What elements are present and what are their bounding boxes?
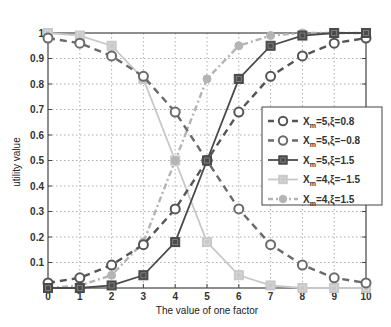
x-axis-label: The value of one factor — [156, 305, 259, 316]
data-point-square — [298, 284, 307, 293]
data-point-square — [362, 29, 371, 38]
data-point-circle — [107, 261, 116, 270]
y-tick-label: 0.8 — [30, 79, 44, 90]
data-point-circle — [234, 204, 243, 213]
data-point-dot — [171, 157, 179, 165]
data-point-dot — [235, 42, 243, 50]
data-point-dot — [108, 271, 116, 279]
y-tick-label: 0.3 — [30, 206, 44, 217]
y-tick-label: 0.6 — [30, 130, 44, 141]
data-point-square — [266, 41, 275, 50]
data-point-square — [203, 156, 212, 165]
line-chart: 0123456789100.10.20.30.40.50.60.70.80.91… — [0, 0, 391, 327]
data-point-circle — [298, 261, 307, 270]
data-point-circle — [266, 240, 275, 249]
x-tick-label: 5 — [204, 291, 210, 302]
x-tick-label: 6 — [236, 291, 242, 302]
data-point-square — [279, 156, 287, 164]
x-tick-label: 4 — [172, 291, 178, 302]
data-point-circle — [75, 273, 84, 282]
data-point-square — [330, 284, 339, 293]
data-point-square — [44, 284, 53, 293]
data-point-circle — [44, 34, 53, 43]
data-point-square — [234, 271, 243, 280]
data-point-circle — [171, 204, 180, 213]
data-point-square — [139, 271, 148, 280]
data-point-circle — [298, 51, 307, 60]
data-point-square — [75, 284, 84, 293]
data-point-circle — [279, 117, 287, 125]
data-point-square — [107, 41, 116, 50]
data-point-square — [234, 74, 243, 83]
data-point-dot — [279, 195, 286, 202]
y-tick-label: 0.2 — [30, 232, 44, 243]
x-tick-label: 7 — [268, 291, 274, 302]
data-point-circle — [330, 39, 339, 48]
data-point-square — [266, 281, 275, 290]
data-point-circle — [266, 72, 275, 81]
data-point-square — [279, 175, 287, 183]
data-point-circle — [362, 278, 371, 287]
y-tick-label: 0.5 — [30, 155, 44, 166]
x-tick-label: 2 — [109, 291, 115, 302]
data-point-square — [330, 29, 339, 38]
data-point-circle — [171, 108, 180, 117]
data-point-circle — [330, 273, 339, 282]
x-tick-label: 3 — [141, 291, 147, 302]
y-tick-label: 0.7 — [30, 104, 44, 115]
data-point-circle — [75, 39, 84, 48]
data-point-circle — [279, 136, 287, 144]
y-axis-label: utility value — [11, 137, 22, 187]
data-point-square — [298, 31, 307, 40]
data-point-circle — [107, 51, 116, 60]
data-point-square — [107, 281, 116, 290]
data-point-circle — [139, 72, 148, 81]
y-tick-label: 0.9 — [30, 53, 44, 64]
data-point-dot — [203, 75, 211, 83]
data-point-circle — [139, 240, 148, 249]
data-point-dot — [267, 32, 275, 40]
data-point-square — [203, 238, 212, 247]
y-tick-label: 0.4 — [30, 181, 44, 192]
data-point-circle — [234, 108, 243, 117]
y-tick-label: 0.1 — [30, 257, 44, 268]
legend: Xm=5,ξ=0.8Xm=5,ξ=−0.8Xm=5,ξ=1.5Xm=4,ξ=−1… — [262, 107, 382, 207]
data-point-square — [171, 238, 180, 247]
